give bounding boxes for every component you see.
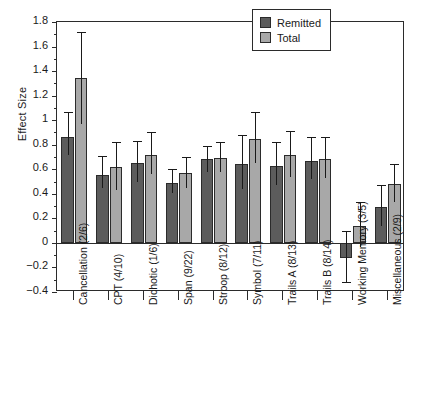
y-tick-mark [52,169,57,170]
error-bar [68,112,69,155]
y-minor-tick-mark [54,280,57,281]
x-axis-category-label: Trails A (8/13) [286,241,298,305]
legend-item: Remitted [260,15,321,30]
x-tick [178,291,179,300]
error-bar [151,132,152,174]
y-tick-mark [52,96,57,97]
y-tick-mark [52,47,57,48]
x-axis-category-label: Miscellaneous (2/9) [391,214,403,305]
y-tick-mark [52,22,57,23]
y-tick-label: 1.2 [33,88,48,100]
x-axis-category-label: CPT (4/10) [112,254,124,305]
y-tick-label: 0.2 [33,210,48,222]
plot-area: 1.81.61.41.210.80.60.40.20−0.2−0.4 [56,21,404,291]
x-tick [143,291,144,300]
y-minor-tick-mark [54,182,57,183]
y-tick-label: 1.4 [33,63,48,75]
bar-remitted [201,159,214,242]
y-tick-label: 0.6 [33,161,48,173]
y-tick-mark [52,292,57,293]
error-bar [137,141,138,182]
y-minor-tick-mark [54,157,57,158]
x-axis-category-label: Dichotic (1/6) [147,243,159,305]
y-tick-label: 0 [42,235,48,247]
error-bar-cap-upper [98,156,107,157]
x-axis-category-label: Working Memory (3/5) [356,201,368,305]
y-minor-tick-mark [54,83,57,84]
error-bar [311,137,312,179]
x-axis-category-label: Symbol (7/11) [251,240,263,305]
legend-swatch [260,32,271,43]
error-bar [242,135,243,189]
error-bar-cap-lower [342,282,351,283]
x-tick [247,291,248,300]
y-tick-mark [52,145,57,146]
error-bar-cap-upper [168,169,177,170]
error-bar-cap-upper [77,32,86,33]
y-tick-label: −0.4 [26,284,48,296]
error-bar [81,32,82,124]
error-bar [381,185,382,226]
error-bar-cap-upper [390,164,399,165]
y-tick-mark [52,243,57,244]
y-minor-tick-mark [54,255,57,256]
chart-legend: RemittedTotal [252,9,331,51]
x-tick [387,291,388,300]
y-minor-tick-mark [54,132,57,133]
error-bar [207,146,208,172]
y-tick-mark [52,71,57,72]
y-minor-tick-mark [54,206,57,207]
x-axis-category-label: Stroop (8/12) [217,244,229,305]
legend-item: Total [260,30,321,45]
y-tick-label: 1.8 [33,14,48,26]
legend-label: Total [277,32,300,44]
error-bar [102,156,103,188]
y-tick-mark [52,194,57,195]
error-bar [290,131,291,176]
x-tick [352,291,353,300]
error-bar [325,137,326,178]
x-axis-category-label: Cancellation (2/6) [77,223,89,305]
error-bar-cap-upper [64,112,73,113]
chart-figure: Effect Size 1.81.61.41.210.80.60.40.20−0… [0,0,421,415]
y-tick-mark [52,267,57,268]
y-tick-label: 1.6 [33,39,48,51]
y-axis-label: Effect Size [16,54,28,174]
x-tick [108,291,109,300]
error-bar-cap-upper [307,137,316,138]
error-bar-cap-upper [216,142,225,143]
error-bar [220,142,221,171]
error-bar-cap-upper [147,132,156,133]
error-bar-cap-upper [203,146,212,147]
y-tick-label: −0.2 [26,259,48,271]
error-bar [116,142,117,190]
error-bar [186,157,187,188]
error-bar [346,231,347,284]
y-tick-mark [52,218,57,219]
error-bar-cap-upper [286,131,295,132]
error-bar [255,112,256,164]
x-tick [282,291,283,300]
x-tick [317,291,318,300]
y-tick-label: 1 [42,112,48,124]
legend-swatch [260,17,271,28]
error-bar-cap-upper [251,112,260,113]
error-bar-cap-upper [377,185,386,186]
y-minor-tick-mark [54,231,57,232]
x-tick [73,291,74,300]
error-bar-cap-upper [133,141,142,142]
y-tick-label: 0.8 [33,137,48,149]
legend-label: Remitted [277,17,321,29]
error-bar-cap-upper [182,157,191,158]
x-axis-category-label: Trails B (8/14) [321,239,333,305]
y-minor-tick-mark [54,59,57,60]
error-bar-cap-upper [272,142,281,143]
y-minor-tick-mark [54,34,57,35]
y-tick-label: 0.4 [33,186,48,198]
error-bar [394,164,395,202]
error-bar-cap-upper [342,231,351,232]
error-bar-cap-upper [112,142,121,143]
y-tick-mark [52,120,57,121]
x-axis-category-label: Span (9/22) [182,250,194,305]
x-tick [213,291,214,300]
